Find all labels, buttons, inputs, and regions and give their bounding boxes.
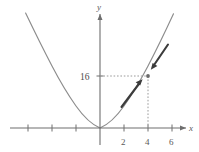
y-value-label-16: 16: [80, 72, 90, 82]
plot-canvas: y x 2 4 6 16: [0, 0, 199, 152]
x-tick-label-2: 2: [121, 137, 126, 147]
parabola-tangent-figure: y x 2 4 6 16: [0, 0, 199, 152]
approach-from-above-arrow: [151, 45, 168, 70]
x-tick-label-4: 4: [145, 137, 150, 147]
x-tick-label-6: 6: [169, 137, 174, 147]
x-axis-label: x: [188, 123, 193, 133]
marked-point-4-16: [146, 74, 150, 78]
y-axis-arrowhead: [98, 14, 103, 20]
x-axis-arrowhead: [180, 125, 186, 130]
y-axis-label: y: [96, 2, 101, 12]
approach-from-below-arrow: [122, 79, 143, 107]
